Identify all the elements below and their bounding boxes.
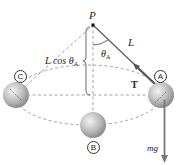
string-length-label: L <box>128 37 134 48</box>
pivot-point <box>92 24 95 27</box>
ball-b <box>80 112 106 138</box>
angle-label: θA <box>101 49 110 60</box>
angle-arc <box>93 40 108 45</box>
height-label-subscript: A <box>74 61 78 67</box>
pivot-label: P <box>89 10 96 21</box>
position-label-c: C <box>14 70 27 83</box>
angle-subscript: A <box>106 54 110 60</box>
position-label-a: A <box>154 70 167 83</box>
position-label-b: B <box>87 141 100 154</box>
tension-label: T <box>131 80 138 90</box>
conical-pendulum-diagram: P L θA L cos θA T mg A B C <box>0 0 185 165</box>
height-brace <box>83 27 90 95</box>
weight-label: mg <box>147 144 158 153</box>
height-label-text: L cos θ <box>45 55 74 66</box>
height-label: L cos θA <box>45 56 78 67</box>
ball-a <box>148 82 174 108</box>
weight-arrowhead <box>161 155 168 163</box>
